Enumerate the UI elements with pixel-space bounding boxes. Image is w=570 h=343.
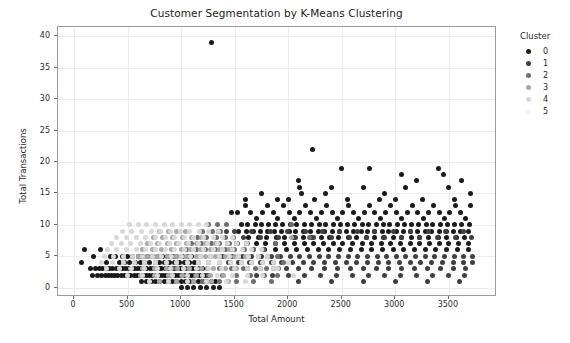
scatter-point: [374, 222, 379, 227]
scatter-point: [329, 185, 334, 190]
scatter-point: [308, 229, 313, 234]
legend-item-4[interactable]: 4: [519, 93, 567, 105]
scatter-point: [294, 222, 299, 227]
scatter-point: [172, 247, 177, 252]
scatter-point: [296, 266, 301, 271]
scatter-point: [466, 241, 471, 246]
scatter-point: [198, 254, 203, 259]
scatter-point: [462, 273, 467, 278]
scatter-point: [243, 197, 248, 202]
legend-item-2[interactable]: 2: [519, 69, 567, 81]
scatter-point: [264, 266, 269, 271]
scatter-point: [187, 222, 192, 227]
scatter-point: [335, 216, 340, 221]
scatter-point: [399, 235, 404, 240]
scatter-point: [438, 266, 443, 271]
legend-item-3[interactable]: 3: [519, 81, 567, 93]
scatter-point: [204, 285, 209, 290]
scatter-point: [296, 178, 301, 183]
scatter-point: [414, 178, 419, 183]
scatter-point: [254, 241, 259, 246]
scatter-point: [98, 247, 103, 252]
scatter-point: [114, 247, 119, 252]
legend-item-5[interactable]: 5: [519, 105, 567, 117]
scatter-point: [386, 260, 391, 265]
scatter-point: [408, 260, 413, 265]
scatter-point: [105, 247, 110, 252]
legend-item-1[interactable]: 1: [519, 57, 567, 69]
scatter-point: [185, 279, 190, 284]
scatter-point: [467, 222, 472, 227]
x-tick-mark: [234, 296, 235, 299]
scatter-point: [409, 222, 414, 227]
scatter-point: [217, 254, 222, 259]
scatter-point: [369, 247, 374, 252]
scatter-point: [130, 254, 135, 259]
scatter-point: [423, 254, 428, 259]
scatter-point: [119, 241, 124, 246]
scatter-point: [367, 203, 372, 208]
scatter-point: [414, 273, 419, 278]
scatter-point: [466, 229, 471, 234]
scatter-point: [388, 203, 393, 208]
scatter-point: [444, 235, 449, 240]
y-tick-mark: [54, 224, 57, 225]
scatter-point: [82, 247, 87, 252]
scatter-point: [273, 222, 278, 227]
scatter-point: [314, 216, 319, 221]
scatter-point: [227, 254, 232, 259]
legend-swatch-wrap: [519, 61, 537, 66]
scatter-point: [367, 166, 372, 171]
scatter-point: [296, 279, 301, 284]
scatter-point: [381, 222, 386, 227]
legend-dot-icon: [526, 73, 531, 78]
scatter-point: [229, 210, 234, 215]
scatter-point: [427, 241, 432, 246]
scatter-point: [308, 210, 313, 215]
scatter-point: [275, 216, 280, 221]
scatter-point: [286, 260, 291, 265]
scatter-point: [338, 222, 343, 227]
scatter-point: [196, 260, 201, 265]
scatter-point: [215, 222, 220, 227]
x-tick-label: 2500: [331, 300, 351, 309]
scatter-point: [437, 229, 442, 234]
scatter-point: [178, 229, 183, 234]
scatter-point: [284, 247, 289, 252]
scatter-point: [301, 235, 306, 240]
scatter-point: [437, 210, 442, 215]
scatter-point: [258, 235, 263, 240]
y-tick-mark: [54, 130, 57, 131]
scatter-point: [208, 273, 213, 278]
scatter-point: [176, 241, 181, 246]
scatter-point: [379, 241, 384, 246]
scatter-point: [375, 254, 380, 259]
scatter-point: [275, 254, 280, 259]
scatter-point: [162, 222, 167, 227]
scatter-point: [361, 266, 366, 271]
x-tick-label: 1500: [223, 300, 243, 309]
legend-dot-icon: [526, 61, 531, 66]
scatter-point: [393, 279, 398, 284]
scatter-point: [451, 266, 456, 271]
legend-swatch-wrap: [519, 85, 537, 90]
x-tick-label: 0: [71, 300, 76, 309]
scatter-point: [435, 235, 440, 240]
scatter-point: [275, 273, 280, 278]
scatter-point: [206, 260, 211, 265]
y-tick-mark: [54, 255, 57, 256]
legend-item-0[interactable]: 0: [519, 45, 567, 57]
scatter-point: [455, 247, 460, 252]
scatter-point: [391, 229, 396, 234]
scatter-point: [438, 222, 443, 227]
scatter-point: [139, 279, 144, 284]
legend: Cluster 012345: [519, 31, 567, 117]
scatter-point: [350, 273, 355, 278]
scatter-point: [417, 235, 422, 240]
scatter-point: [307, 235, 312, 240]
legend-swatch-wrap: [519, 49, 537, 54]
scatter-point: [425, 266, 430, 271]
scatter-point: [440, 260, 445, 265]
scatter-point: [445, 222, 450, 227]
scatter-point: [461, 260, 466, 265]
